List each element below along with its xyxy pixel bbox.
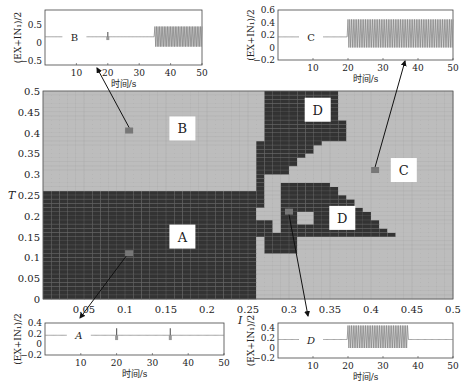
y-tick-label: 0.4: [24, 128, 40, 139]
marker-A: [125, 250, 133, 256]
svg-text:40: 40: [165, 68, 177, 78]
svg-text:0: 0: [36, 38, 42, 48]
inset-label: D: [306, 335, 315, 346]
inset-A: 10203040500.40.20−0.2时间/s(EX+IN₁)/2A: [13, 313, 230, 379]
y-tick-label: 0.05: [18, 273, 40, 284]
svg-text:−0.2: −0.2: [253, 353, 275, 363]
svg-text:50: 50: [218, 358, 230, 368]
svg-text:0.4: 0.4: [261, 323, 276, 333]
y-axis-label: T: [8, 189, 17, 202]
y-tick-label: 0.3: [24, 169, 40, 180]
svg-text:50: 50: [196, 68, 208, 78]
inset-label: C: [307, 32, 315, 43]
region-label-C: C: [399, 163, 409, 178]
y-tick-label: 0.1: [24, 252, 40, 263]
x-tick-label: 0.3: [281, 304, 297, 315]
y-tick-label: 0.15: [18, 232, 40, 243]
svg-text:30: 30: [377, 361, 389, 371]
y-tick-label: 0: [34, 294, 40, 305]
figure: ABCDD00.050.10.150.20.250.30.350.40.450.…: [0, 0, 466, 389]
svg-text:−0.5: −0.5: [20, 56, 42, 66]
inset-y-label: (EX+IN₁)/2: [13, 12, 23, 63]
region-label-B: B: [178, 121, 188, 136]
svg-text:10: 10: [307, 63, 319, 73]
inset-D: 10203040500.40.20−0.2时间/s(EX+IN₁)/2D: [246, 315, 459, 382]
svg-text:30: 30: [147, 358, 159, 368]
svg-text:0.6: 0.6: [261, 5, 276, 15]
x-tick-label: 0.2: [199, 304, 215, 315]
inset-x-label: 时间/s: [111, 78, 137, 89]
inset-C: 10203040500.60.40.20−0.2时间/s(EX+IN₁)/2C: [246, 5, 459, 84]
marker-C: [371, 167, 379, 173]
svg-text:10: 10: [71, 68, 83, 78]
svg-text:0: 0: [36, 339, 42, 349]
x-tick-label: 0.45: [401, 304, 423, 315]
x-tick-label: 0.1: [117, 304, 133, 315]
inset-x-label: 时间/s: [353, 73, 379, 84]
inset-y-label: (EX+IN₁)/2: [246, 315, 256, 366]
svg-text:0.2: 0.2: [261, 30, 275, 40]
svg-text:30: 30: [133, 68, 145, 78]
svg-text:0: 0: [269, 43, 275, 53]
inset-y-label: (EX+IN₁)/2: [246, 9, 256, 60]
x-tick-label: 0.4: [363, 304, 379, 315]
y-tick-label: 0.45: [18, 107, 40, 118]
y-tick-label: 0.5: [24, 86, 40, 97]
y-tick-label: 0.2: [24, 211, 40, 222]
marker-D: [285, 209, 293, 215]
main-heatmap: ABCDD: [43, 91, 453, 299]
svg-text:20: 20: [342, 361, 354, 371]
svg-text:0.4: 0.4: [261, 18, 276, 28]
svg-text:0: 0: [269, 343, 275, 353]
svg-text:40: 40: [412, 63, 424, 73]
svg-text:−0.2: −0.2: [253, 55, 275, 65]
inset-y-label: (EX+IN₁)/2: [13, 313, 23, 364]
svg-text:40: 40: [412, 361, 424, 371]
svg-text:0.2: 0.2: [28, 329, 42, 339]
svg-text:10: 10: [75, 358, 87, 368]
marker-B: [125, 128, 133, 134]
inset-x-label: 时间/s: [353, 371, 379, 382]
x-axis-label: I: [237, 314, 243, 327]
inset-B: 10203040500.50−0.5时间/s(EX+IN₁)/2B: [13, 10, 208, 89]
region-label-A: A: [177, 230, 188, 245]
svg-text:0.4: 0.4: [28, 318, 43, 328]
region-label-D: D: [337, 211, 347, 226]
x-tick-label: 0.5: [445, 304, 461, 315]
svg-text:20: 20: [111, 358, 123, 368]
svg-text:0.5: 0.5: [28, 20, 43, 30]
svg-text:50: 50: [447, 361, 459, 371]
inset-label: A: [74, 330, 82, 341]
region-label-D: D: [312, 103, 322, 118]
svg-text:20: 20: [342, 63, 354, 73]
svg-text:30: 30: [377, 63, 389, 73]
y-tick-label: 0.35: [18, 148, 40, 159]
svg-text:0.2: 0.2: [261, 333, 275, 343]
svg-text:−0.2: −0.2: [20, 350, 42, 360]
svg-text:20: 20: [102, 68, 114, 78]
x-tick-label: 0.15: [155, 304, 177, 315]
inset-label: B: [71, 32, 78, 43]
y-tick-label: 0.25: [18, 190, 40, 201]
inset-x-label: 时间/s: [122, 368, 148, 379]
svg-text:40: 40: [182, 358, 194, 368]
figure-canvas: ABCDD00.050.10.150.20.250.30.350.40.450.…: [0, 0, 466, 389]
svg-text:50: 50: [447, 63, 459, 73]
svg-text:10: 10: [307, 361, 319, 371]
x-tick-label: 0.35: [319, 304, 341, 315]
